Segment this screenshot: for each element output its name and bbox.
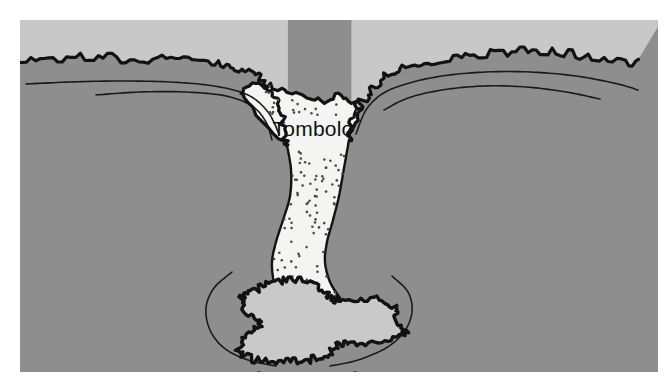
sand-grain-dot (300, 157, 303, 160)
sand-grain-dot (321, 180, 324, 183)
sand-grain-dot (340, 153, 343, 156)
sand-grain-dot (314, 218, 317, 221)
sand-grain-dot (265, 91, 268, 94)
sand-grain-dot (327, 228, 330, 231)
sand-grain-dot (315, 108, 318, 111)
sand-grain-dot (277, 99, 280, 102)
sand-grain-dot (284, 266, 287, 269)
sand-grain-dot (283, 227, 286, 230)
sand-grain-dot (273, 258, 276, 261)
sand-grain-dot (323, 158, 326, 161)
sand-grain-dot (336, 179, 339, 182)
sand-grain-dot (333, 203, 336, 206)
sand-grain-dot (325, 167, 328, 170)
sand-grain-dot (298, 111, 301, 114)
sand-grain-dot (305, 246, 308, 249)
sand-grain-dot (329, 160, 332, 163)
sand-grain-dot (333, 196, 336, 199)
sand-grain-dot (322, 251, 325, 254)
sand-grain-dot (295, 266, 298, 269)
sand-grain-dot (356, 110, 359, 113)
sand-grain-dot (335, 103, 338, 106)
sand-grain-dot (314, 204, 317, 207)
sand-grain-dot (297, 253, 300, 256)
sand-grain-dot (316, 113, 319, 116)
sand-grain-dot (318, 226, 321, 229)
sand-grain-dot (298, 255, 301, 258)
sand-grain-dot (331, 183, 334, 186)
sand-grain-dot (309, 183, 312, 186)
sand-grain-dot (322, 177, 325, 180)
sand-grain-dot (300, 171, 303, 174)
figure-root: Tombolo (0, 0, 670, 392)
sand-grain-dot (293, 111, 296, 114)
sand-grain-dot (338, 185, 341, 188)
sand-grain-dot (306, 211, 309, 214)
sand-grain-dot (269, 111, 272, 114)
sand-grain-dot (301, 184, 304, 187)
sand-grain-dot (315, 188, 318, 191)
sand-grain-dot (312, 232, 315, 235)
sand-grain-dot (325, 190, 328, 193)
sand-grain-dot (272, 106, 275, 109)
sand-grain-dot (314, 195, 317, 198)
sand-grain-dot (290, 241, 293, 244)
sand-grain-dot (278, 251, 281, 254)
sand-grain-dot (296, 192, 299, 195)
sand-grain-dot (291, 99, 294, 102)
sand-grain-dot (325, 233, 328, 236)
sand-grain-dot (304, 161, 307, 164)
sand-grain-dot (323, 222, 326, 225)
sand-grain-dot (314, 221, 317, 224)
sand-grain-dot (316, 270, 319, 273)
sand-grain-dot (341, 172, 344, 175)
sand-grain-dot (267, 91, 270, 94)
sand-grain-dot (290, 260, 293, 263)
sand-grain-dot (290, 221, 293, 224)
sand-grain-dot (308, 162, 311, 165)
sand-grain-dot (304, 108, 307, 111)
sand-grain-dot (307, 201, 310, 204)
sand-grain-dot (310, 112, 313, 115)
sand-grain-dot (298, 151, 301, 154)
tombolo-scene: Tombolo (20, 20, 658, 372)
tombolo-label: Tombolo (273, 117, 354, 140)
sand-grain-dot (337, 169, 340, 172)
sand-grain-dot (290, 203, 293, 206)
sand-grain-dot (343, 155, 346, 158)
sand-grain-dot (294, 178, 297, 181)
sand-grain-dot (283, 218, 286, 221)
sand-grain-dot (316, 212, 319, 215)
sand-grain-dot (291, 175, 294, 178)
sand-grain-dot (268, 85, 271, 88)
sand-grain-dot (276, 269, 279, 272)
sand-grain-dot (333, 291, 336, 294)
sand-grain-dot (290, 227, 293, 230)
sand-grain-dot (309, 214, 312, 217)
sand-grain-dot (334, 164, 337, 167)
sand-grain-dot (311, 226, 314, 229)
sand-grain-dot (271, 113, 274, 116)
sand-grain-dot (292, 109, 295, 112)
sand-grain-dot (335, 113, 338, 116)
sand-grain-dot (288, 218, 291, 221)
sand-grain-dot (316, 265, 319, 268)
sand-grain-dot (303, 175, 306, 178)
sand-grain-dot (281, 259, 284, 262)
diagram-panel: Tombolo (20, 20, 658, 372)
sand-grain-dot (299, 162, 302, 165)
sand-grain-dot (315, 175, 318, 178)
sand-grain-dot (325, 275, 328, 278)
sand-grain-dot (321, 175, 324, 178)
sand-grain-dot (314, 178, 317, 181)
sand-grain-dot (296, 103, 299, 106)
sand-grain-dot (273, 102, 276, 105)
